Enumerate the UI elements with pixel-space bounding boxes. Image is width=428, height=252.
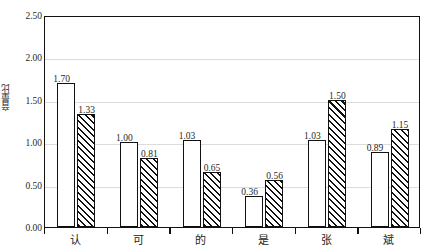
x-axis-category-label: 张 bbox=[304, 234, 348, 248]
bar-value-label: 1.03 bbox=[304, 131, 321, 141]
x-axis-tick bbox=[232, 228, 233, 234]
bar-2 bbox=[77, 114, 95, 227]
bar-value-label: 1.33 bbox=[78, 105, 95, 115]
y-axis-tick-label: 2.00 bbox=[12, 53, 42, 63]
x-axis-category-label: 的 bbox=[179, 234, 223, 248]
y-axis-tick-label: 1.50 bbox=[12, 96, 42, 106]
y-axis-tick-label: 2.50 bbox=[12, 11, 42, 21]
bar-value-label: 1.03 bbox=[179, 131, 196, 141]
x-axis-tick bbox=[420, 228, 421, 234]
y-axis-tick-label: 0.50 bbox=[12, 181, 42, 191]
bar-value-label: 0.56 bbox=[266, 171, 283, 181]
plot-inner: 1.701.331.000.811.030.650.360.561.031.50… bbox=[45, 17, 419, 227]
bar-value-label: 1.70 bbox=[53, 74, 70, 84]
y-axis-tick-label: 1.00 bbox=[12, 138, 42, 148]
bar-1 bbox=[57, 83, 75, 227]
bar-value-label: 0.81 bbox=[141, 149, 158, 159]
bar-2 bbox=[140, 158, 158, 227]
bar-2 bbox=[203, 172, 221, 227]
bar-value-label: 0.65 bbox=[204, 163, 221, 173]
bar-1 bbox=[245, 196, 263, 227]
bar-value-label: 1.15 bbox=[392, 120, 409, 130]
bar-1 bbox=[183, 140, 201, 227]
bar-2 bbox=[328, 100, 346, 227]
y-axis-tick-label: 0.00 bbox=[12, 223, 42, 233]
bar-value-label: 1.50 bbox=[329, 91, 346, 101]
x-axis-tick bbox=[295, 228, 296, 234]
bar-value-label: 0.89 bbox=[367, 143, 384, 153]
x-axis-category-label: 可 bbox=[116, 234, 160, 248]
bar-1 bbox=[371, 152, 389, 227]
plot-area: 1.701.331.000.811.030.650.360.561.031.50… bbox=[44, 16, 420, 228]
bar-value-label: 0.36 bbox=[241, 187, 258, 197]
x-axis-tick bbox=[44, 228, 45, 234]
x-axis-tick bbox=[169, 228, 170, 234]
bar-1 bbox=[120, 142, 138, 227]
x-axis-category-label: 认 bbox=[53, 234, 97, 248]
x-axis-category-label: 斌 bbox=[367, 234, 411, 248]
y-axis-tick-labels: 0.000.501.001.502.002.50 bbox=[12, 0, 42, 252]
bar-2 bbox=[265, 180, 283, 227]
bar-2 bbox=[391, 129, 409, 227]
x-axis-tick bbox=[357, 228, 358, 234]
bar-chart: 音量比 0.000.501.001.502.002.50 1.701.331.0… bbox=[0, 0, 428, 252]
bar-1 bbox=[308, 140, 326, 227]
bar-value-label: 1.00 bbox=[116, 133, 133, 143]
x-axis-category-label: 是 bbox=[241, 234, 285, 248]
x-axis-tick bbox=[107, 228, 108, 234]
